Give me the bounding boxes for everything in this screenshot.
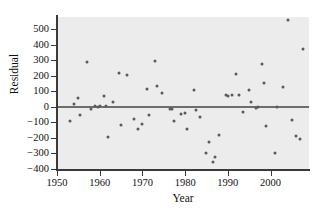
data-point	[156, 85, 159, 88]
y-axis-line	[56, 15, 58, 171]
data-point	[237, 93, 240, 96]
x-tick-mark	[142, 171, 143, 176]
data-point	[261, 62, 264, 65]
data-point	[126, 73, 129, 76]
data-point	[173, 119, 176, 122]
x-tick-mark	[100, 171, 101, 176]
x-tick-label: 1980	[165, 177, 205, 188]
data-point	[241, 110, 244, 113]
x-tick-label: 2000	[251, 177, 291, 188]
y-tick-label: −400	[0, 164, 49, 174]
data-point	[275, 105, 278, 108]
y-tick-label-text: −100	[27, 117, 49, 127]
data-point	[273, 151, 276, 154]
data-point	[179, 112, 182, 115]
data-point	[120, 124, 123, 127]
data-point	[137, 128, 140, 131]
y-tick-label-text: 0	[44, 102, 49, 112]
data-point	[102, 95, 105, 98]
data-point	[117, 71, 120, 74]
y-tick-mark	[51, 45, 57, 46]
data-point	[171, 107, 174, 110]
data-point	[282, 86, 285, 89]
data-point	[211, 160, 214, 163]
data-point	[105, 104, 108, 107]
x-tick-mark	[228, 171, 229, 176]
y-tick-label-text: 200	[33, 71, 49, 81]
data-point	[286, 19, 289, 22]
data-point	[90, 107, 93, 110]
data-point	[290, 118, 293, 121]
data-point	[231, 94, 234, 97]
data-point	[68, 119, 71, 122]
data-point	[145, 88, 148, 91]
x-axis-title: Year	[57, 192, 309, 204]
residual-scatter-chart: −400−300−200−1000100200300400500 1950196…	[0, 0, 316, 213]
data-point	[199, 115, 202, 118]
data-point	[85, 61, 88, 64]
data-point	[192, 89, 195, 92]
y-tick-label-text: 500	[33, 24, 49, 34]
data-point	[184, 112, 187, 115]
data-point	[250, 100, 253, 103]
y-tick-mark	[51, 60, 57, 61]
y-axis-title: Residual	[8, 44, 20, 104]
y-tick-label-text: 400	[33, 40, 49, 50]
data-point	[73, 102, 76, 105]
data-point	[218, 134, 221, 137]
data-point	[160, 92, 163, 95]
data-point	[107, 136, 110, 139]
x-tick-mark	[271, 171, 272, 176]
x-tick-label: 1990	[208, 177, 248, 188]
y-tick-mark	[51, 76, 57, 77]
data-point	[265, 125, 268, 128]
data-point	[186, 127, 189, 130]
y-tick-mark	[51, 122, 57, 123]
x-tick-label: 1950	[37, 177, 77, 188]
data-point	[235, 72, 238, 75]
plot-panel	[57, 17, 309, 169]
data-point	[263, 81, 266, 84]
data-point	[147, 114, 150, 117]
y-tick-label-text: −200	[27, 133, 49, 143]
data-point	[248, 89, 251, 92]
y-tick-mark	[51, 138, 57, 139]
data-point	[226, 95, 229, 98]
data-point	[79, 114, 82, 117]
data-point	[154, 59, 157, 62]
y-tick-label: −200	[0, 133, 49, 143]
y-tick-mark	[51, 29, 57, 30]
x-tick-mark	[185, 171, 186, 176]
data-point	[207, 141, 210, 144]
data-point	[98, 105, 101, 108]
data-point	[298, 138, 301, 141]
data-point	[256, 105, 259, 108]
data-point	[295, 135, 298, 138]
data-point	[77, 97, 80, 100]
data-point	[214, 155, 217, 158]
data-point	[111, 100, 114, 103]
y-tick-mark	[51, 107, 57, 108]
y-tick-label: 500	[0, 24, 49, 34]
y-tick-label-text: 100	[33, 86, 49, 96]
y-tick-label-text: −300	[27, 148, 49, 158]
y-tick-label: −100	[0, 117, 49, 127]
y-tick-label-text: 300	[33, 55, 49, 65]
y-tick-mark	[51, 91, 57, 92]
x-axis-line	[56, 169, 310, 171]
data-point	[140, 122, 143, 125]
y-tick-mark	[51, 153, 57, 154]
y-tick-label: −300	[0, 148, 49, 158]
x-tick-label: 1960	[80, 177, 120, 188]
data-point	[194, 109, 197, 112]
data-point	[132, 117, 135, 120]
y-tick-mark	[51, 169, 57, 170]
x-tick-mark	[57, 171, 58, 176]
y-tick-label-text: −400	[27, 164, 49, 174]
data-point	[301, 48, 304, 51]
data-point	[205, 152, 208, 155]
x-tick-label: 1970	[122, 177, 162, 188]
